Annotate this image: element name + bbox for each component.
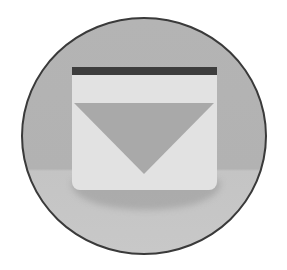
download-inbox-icon bbox=[72, 67, 217, 190]
icon-canvas bbox=[0, 0, 287, 270]
down-arrow-icon bbox=[74, 103, 214, 174]
top-bar bbox=[72, 67, 217, 75]
